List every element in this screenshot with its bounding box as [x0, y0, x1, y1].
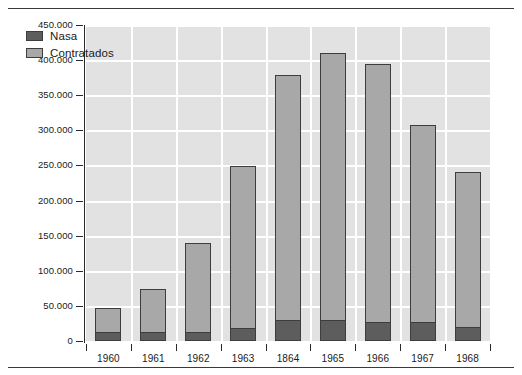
y-axis-tick-mark: [76, 341, 83, 342]
y-axis-line: [84, 25, 85, 343]
bar-segment-nasa: [231, 328, 255, 340]
bar-1967[interactable]: [410, 125, 436, 341]
bar-segment-nasa: [141, 332, 165, 340]
gridline-vertical: [221, 25, 223, 341]
top-rule: [8, 8, 514, 9]
y-axis-tick-label: 50.000: [11, 301, 73, 311]
bar-1961[interactable]: [140, 289, 166, 341]
bar-segment-nasa: [186, 332, 210, 340]
bar-segment-nasa: [96, 332, 120, 340]
y-axis-tick-mark: [76, 165, 83, 166]
bar-1960[interactable]: [95, 308, 121, 341]
y-axis-tick-mark: [76, 306, 83, 307]
bar-1965[interactable]: [320, 53, 346, 341]
y-axis-tick-mark: [76, 25, 83, 26]
legend-swatch-nasa-icon: [26, 31, 43, 41]
bar-segment-nasa: [366, 322, 390, 340]
y-axis-tick-mark: [76, 271, 83, 272]
bar-segment-contratados: [141, 290, 165, 334]
bar-1864[interactable]: [275, 75, 301, 341]
gridline-vertical: [131, 25, 133, 341]
x-axis-tick-mark: [266, 344, 267, 351]
bar-segment-nasa: [411, 322, 435, 340]
bar-1968[interactable]: [455, 172, 481, 341]
bar-segment-contratados: [96, 309, 120, 334]
x-axis-tick-label: 1968: [438, 353, 498, 364]
figure: Número de empregados 050.000100.000150.0…: [0, 0, 522, 375]
gridline-vertical: [176, 25, 178, 341]
chart-legend: Nasa Contratados: [26, 27, 114, 61]
bottom-rule: [8, 367, 514, 368]
x-axis-tick-mark: [355, 344, 356, 351]
y-axis-tick-label: 350.000: [11, 90, 73, 100]
x-axis-tick-mark: [400, 344, 401, 351]
x-axis-tick-mark: [221, 344, 222, 351]
legend-swatch-contratados-icon: [26, 48, 43, 58]
bar-segment-contratados: [276, 76, 300, 322]
legend-item-contratados[interactable]: Contratados: [26, 44, 114, 61]
y-axis-tick-label: 100.000: [11, 266, 73, 276]
legend-label-contratados: Contratados: [50, 47, 114, 59]
y-axis-tick-label: 200.000: [11, 196, 73, 206]
x-axis-tick-mark: [445, 344, 446, 351]
gridline-horizontal: [86, 60, 490, 62]
bar-segment-contratados: [366, 65, 390, 325]
y-axis-tick-mark: [76, 201, 83, 202]
x-axis-tick-mark: [176, 344, 177, 351]
x-axis-tick-mark: [310, 344, 311, 351]
y-axis-tick-mark: [76, 236, 83, 237]
y-axis-tick-label: 150.000: [11, 231, 73, 241]
bar-segment-contratados: [456, 173, 480, 329]
gridline-vertical: [266, 25, 268, 341]
x-axis-tick-mark: [131, 344, 132, 351]
gridline-vertical: [310, 25, 312, 341]
bar-segment-contratados: [231, 167, 255, 330]
bar-1963[interactable]: [230, 166, 256, 341]
gridline-vertical: [445, 25, 447, 341]
gridline-vertical: [400, 25, 402, 341]
gridline-vertical: [355, 25, 357, 341]
bar-segment-contratados: [186, 244, 210, 335]
legend-label-nasa: Nasa: [50, 30, 77, 42]
bar-segment-nasa: [456, 327, 480, 340]
bar-segment-nasa: [321, 320, 345, 340]
bar-segment-contratados: [321, 54, 345, 322]
bar-1962[interactable]: [185, 243, 211, 341]
bar-segment-contratados: [411, 126, 435, 325]
y-axis-tick-label: 250.000: [11, 160, 73, 170]
y-axis-tick-label: 300.000: [11, 125, 73, 135]
y-axis-tick-mark: [76, 130, 83, 131]
x-axis-tick-mark: [490, 344, 491, 351]
y-axis-tick-mark: [76, 95, 83, 96]
legend-item-nasa[interactable]: Nasa: [26, 27, 114, 44]
gridline-horizontal: [86, 25, 490, 27]
x-axis-tick-mark: [86, 344, 87, 351]
bar-segment-nasa: [276, 320, 300, 340]
y-axis-tick-label: 0: [11, 336, 73, 346]
bar-1966[interactable]: [365, 64, 391, 341]
